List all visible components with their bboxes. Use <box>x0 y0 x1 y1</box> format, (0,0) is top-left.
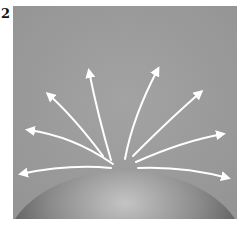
radiating-arrows-diagram <box>13 6 237 219</box>
diagram-panel <box>13 6 237 219</box>
figure-label: 2 <box>1 6 10 21</box>
